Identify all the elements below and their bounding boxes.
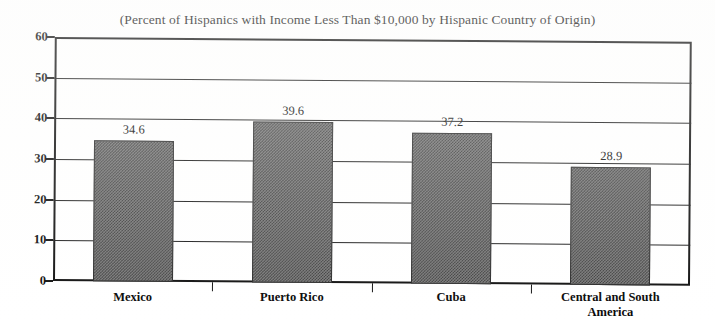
bar [93,141,174,282]
y-axis-tick-mark [46,77,54,79]
y-axis-tick-mark [45,239,53,241]
x-axis-tick-mark [371,283,372,292]
bar-chart: (Percent of Hispanics with Income Less T… [0,0,715,325]
x-axis-category-label: Mexico [113,290,152,305]
y-axis-tick-label: 50 [35,70,48,85]
y-axis-tick-mark [46,117,54,119]
bar [411,132,492,284]
chart-title: (Percent of Hispanics with Income Less T… [0,12,715,28]
y-axis-tick-mark [46,199,54,201]
x-axis-category-label: Central and South America [561,290,660,320]
plot-area: 0102030405060 34.639.637.228.9 [53,37,692,286]
bar [570,167,651,285]
bar-value-label: 39.6 [282,104,304,119]
bar [252,121,333,283]
bar-value-label: 28.9 [600,149,622,164]
y-axis-tick-label: 40 [35,111,48,126]
bar-value-label: 37.2 [441,115,463,130]
x-axis-category-label: Puerto Rico [260,290,324,305]
x-axis-tick-mark [531,285,532,294]
y-axis-tick-label: 30 [34,151,47,166]
y-axis-tick-mark [46,158,54,160]
bar-value-label: 34.6 [123,123,145,138]
y-axis-tick-label: 10 [34,233,47,248]
y-axis-tick-label: 60 [35,29,48,44]
x-axis-tick-mark [212,282,213,291]
x-axis-category-label: Cuba [437,290,466,305]
y-axis-tick-mark [47,36,55,38]
y-axis-tick-label: 0 [40,273,46,288]
y-axis-tick-mark [45,280,53,282]
y-axis-tick-label: 20 [34,192,47,207]
